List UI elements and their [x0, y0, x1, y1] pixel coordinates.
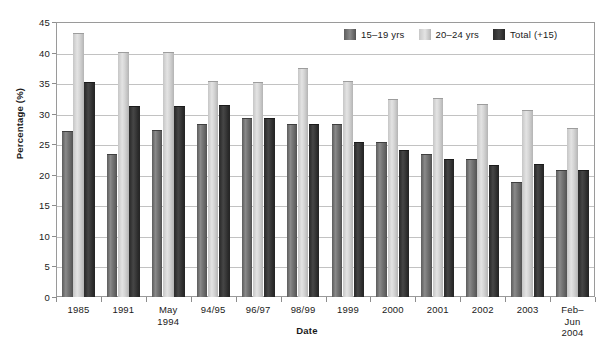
x-tick-mark — [550, 297, 551, 302]
bar — [84, 82, 95, 297]
bar — [174, 106, 185, 297]
bar — [264, 118, 275, 297]
bar — [421, 154, 432, 297]
x-tick-mark — [56, 297, 57, 302]
legend-swatch-icon — [344, 29, 356, 40]
bar — [522, 110, 533, 297]
bar — [163, 52, 174, 297]
x-tick-label: 1999 — [337, 304, 359, 316]
x-tick-label: 2000 — [382, 304, 404, 316]
x-tick-mark — [236, 297, 237, 302]
bar — [489, 165, 500, 297]
legend-item: 15–19 yrs — [344, 29, 405, 40]
bar — [556, 170, 567, 297]
bar — [466, 159, 477, 298]
bar — [62, 131, 73, 297]
legend-swatch-icon — [493, 29, 505, 40]
bar-group — [197, 22, 230, 297]
bar — [208, 81, 219, 297]
x-tick-label: 98/99 — [291, 304, 316, 316]
bar-group — [107, 22, 140, 297]
legend-label: 20–24 yrs — [436, 29, 480, 40]
bar — [354, 142, 365, 297]
y-axis-title: Percentage (%) — [14, 69, 25, 179]
bar-group — [152, 22, 185, 297]
bar — [242, 118, 253, 297]
bar — [309, 124, 320, 297]
x-tick-mark — [326, 297, 327, 302]
legend: 15–19 yrs20–24 yrsTotal (+15) — [344, 26, 557, 42]
x-tick-mark — [146, 297, 147, 302]
x-tick-mark — [191, 297, 192, 302]
bar-group — [62, 22, 95, 297]
y-tick-label: 35 — [39, 78, 50, 89]
bar — [118, 52, 129, 297]
x-tick-mark — [415, 297, 416, 302]
x-tick-label: 2001 — [427, 304, 449, 316]
bar — [343, 81, 354, 297]
bar — [578, 170, 589, 297]
bar — [444, 159, 455, 297]
y-tick-label: 40 — [39, 47, 50, 58]
y-tick-label: 0 — [45, 292, 50, 303]
bar-group — [511, 22, 544, 297]
bar — [298, 68, 309, 297]
bar — [376, 142, 387, 297]
bar — [477, 104, 488, 297]
y-tick-label: 45 — [39, 17, 50, 28]
y-tick-label: 5 — [45, 261, 50, 272]
x-tick-mark — [460, 297, 461, 302]
legend-item: 20–24 yrs — [419, 29, 480, 40]
bar — [567, 128, 578, 297]
x-tick-label: 96/97 — [246, 304, 271, 316]
bar-group — [376, 22, 409, 297]
x-tick-mark — [370, 297, 371, 302]
bar — [219, 105, 230, 297]
bar-chart: 051015202530354045 Percentage (%) 15–19 … — [0, 0, 614, 345]
bars-layer — [56, 22, 595, 297]
bar — [73, 33, 84, 297]
x-tick-mark — [281, 297, 282, 302]
x-tick-mark — [505, 297, 506, 302]
x-tick-label: May 1994 — [157, 304, 179, 327]
y-tick-label: 20 — [39, 169, 50, 180]
bar — [332, 124, 343, 297]
y-tick-label: 10 — [39, 230, 50, 241]
x-axis-title: Date — [0, 325, 614, 336]
x-tick-label: 2002 — [472, 304, 494, 316]
bar-group — [466, 22, 499, 297]
x-tick-label: 2003 — [517, 304, 539, 316]
bar — [511, 182, 522, 297]
y-tick-label: 25 — [39, 139, 50, 150]
bar — [433, 98, 444, 297]
bar — [197, 124, 208, 297]
x-axis: 19851991May 199494/9596/9798/99199920002… — [56, 297, 595, 345]
legend-item: Total (+15) — [493, 29, 557, 40]
bar-group — [242, 22, 275, 297]
bar — [399, 150, 410, 297]
x-tick-mark — [101, 297, 102, 302]
legend-label: Total (+15) — [510, 29, 557, 40]
bar-group — [421, 22, 454, 297]
x-tick-mark — [595, 297, 596, 302]
bar-group — [332, 22, 365, 297]
bar-group — [556, 22, 589, 297]
x-tick-label: 1985 — [67, 304, 89, 316]
legend-swatch-icon — [419, 29, 431, 40]
bar — [107, 154, 118, 297]
x-tick-label: 94/95 — [201, 304, 226, 316]
legend-label: 15–19 yrs — [361, 29, 405, 40]
bar — [129, 106, 140, 297]
bar-group — [287, 22, 320, 297]
y-tick-label: 15 — [39, 200, 50, 211]
y-tick-label: 30 — [39, 108, 50, 119]
bar — [152, 130, 163, 297]
bar — [388, 99, 399, 297]
bar — [534, 164, 545, 297]
x-tick-label: 1991 — [112, 304, 134, 316]
y-axis: 051015202530354045 — [0, 0, 56, 320]
bar — [287, 124, 298, 297]
bar — [253, 82, 264, 297]
